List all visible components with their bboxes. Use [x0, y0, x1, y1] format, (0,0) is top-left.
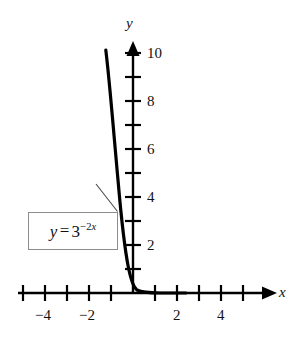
y-axis-label: y — [126, 16, 133, 31]
x-tick-label-4: 4 — [217, 308, 225, 323]
x-axis-label: x — [279, 285, 286, 300]
equation-lhs: y — [50, 221, 58, 240]
x-axis-arrowhead-icon — [262, 287, 277, 300]
equation-exponent: −2x — [80, 221, 96, 232]
x-tick-label-neg2: −2 — [79, 308, 95, 323]
equation-base: 3 — [72, 221, 81, 240]
x-tick-label-neg4: −4 — [35, 308, 51, 323]
x-tick-label-2: 2 — [173, 308, 181, 323]
y-tick-label-2: 2 — [147, 238, 155, 253]
equation-equals-sign: = — [60, 221, 70, 240]
y-tick-label-4: 4 — [147, 190, 155, 205]
equation-label-text: y=3−2x — [50, 221, 96, 242]
y-tick-label-8: 8 — [147, 94, 155, 109]
equation-label-box: y=3−2x — [28, 212, 118, 250]
y-tick-label-6: 6 — [147, 142, 155, 157]
leader-line — [96, 184, 118, 212]
exponential-curve — [106, 50, 186, 293]
y-tick-label-10: 10 — [147, 46, 162, 61]
equation-exponent-variable: x — [92, 221, 97, 232]
exponential-decay-graph-figure: y x 2 4 6 8 10 −4 −2 2 4 y=3−2x — [0, 0, 294, 338]
